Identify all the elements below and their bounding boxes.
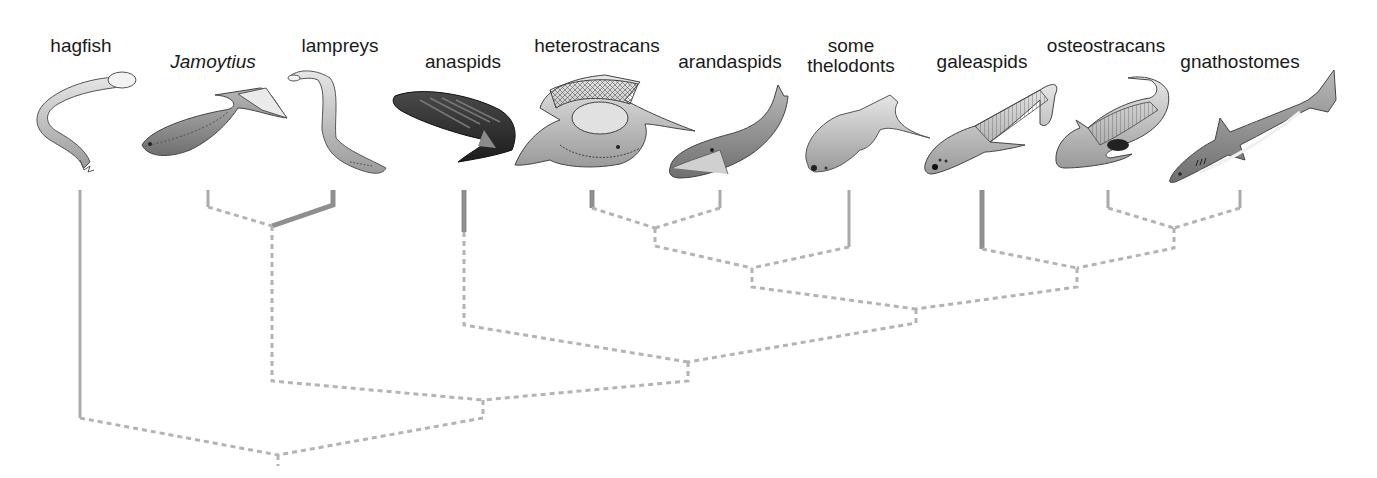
dashed-crown-stem <box>688 309 916 362</box>
dashed-anaspid-crown-stem <box>483 362 688 400</box>
branch-lampreys <box>272 190 333 226</box>
dashed-branches <box>80 207 1240 466</box>
dashed-jamoytius-lamprey-stem <box>272 226 483 400</box>
dashed-thelodonts-to-node <box>752 247 849 268</box>
dashed-galeaspids-to-node <box>982 249 1077 268</box>
dashed-hagfish-to-root <box>80 418 278 455</box>
dashed-vertebrate-stem <box>278 400 483 455</box>
cladogram-figure: hagfish Jamoytius lampreys anaspids hete… <box>0 0 1377 478</box>
dashed-jamoytius-to-node <box>208 207 272 226</box>
dashed-pteraspidomorph-stem <box>655 228 752 268</box>
dashed-arandaspids-to-node <box>655 208 720 228</box>
dashed-gnathostomes-to-node <box>1174 208 1240 228</box>
dashed-thelodont-clade-stem <box>752 268 916 309</box>
cladogram-tree <box>0 0 1377 478</box>
dashed-anaspids-stem <box>464 232 688 362</box>
dashed-osteostracans-to-node <box>1108 208 1174 228</box>
dashed-heterostracans-to-node <box>592 208 655 228</box>
dashed-galeaspid-clade-stem <box>916 268 1077 309</box>
dashed-osteo-gnatho-stem <box>1077 228 1174 268</box>
